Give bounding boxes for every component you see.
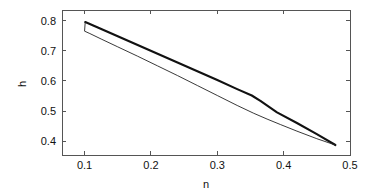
chart-background: [0, 0, 373, 194]
x-tick-label-0.1: 0.1: [77, 159, 92, 171]
y-tick-label-0.6: 0.6: [41, 75, 56, 87]
x-axis-title: n: [203, 178, 209, 190]
x-tick-label-0.4: 0.4: [276, 159, 291, 171]
y-tick-label-0.4: 0.4: [41, 135, 56, 147]
x-tick-label-0.5: 0.5: [342, 159, 357, 171]
x-tick-label-0.3: 0.3: [210, 159, 225, 171]
y-tick-label-0.7: 0.7: [41, 45, 56, 57]
x-tick-label-0.2: 0.2: [143, 159, 158, 171]
line-chart: 0.10.20.30.40.5 0.40.50.60.70.8 n h: [0, 0, 373, 194]
y-tick-label-0.8: 0.8: [41, 15, 56, 27]
y-axis-title: h: [16, 81, 28, 87]
y-tick-label-0.5: 0.5: [41, 105, 56, 117]
figure-container: 0.10.20.30.40.5 0.40.50.60.70.8 n h: [0, 0, 373, 194]
